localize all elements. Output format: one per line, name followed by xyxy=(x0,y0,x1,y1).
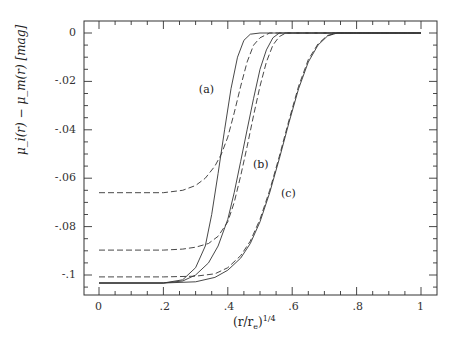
y-tick-label: 0 xyxy=(69,26,76,39)
y-tick-label: -.04 xyxy=(55,123,76,136)
x-axis-label-sup: 1/4 xyxy=(263,314,276,323)
y-tick-label: -.06 xyxy=(55,171,76,184)
y-axis-label: μ_i(r) − μ_m(r) [mag] xyxy=(14,25,28,155)
y-tick-label: -.08 xyxy=(55,220,76,233)
x-tick-label: .2 xyxy=(159,300,170,313)
y-tick-label: -.1 xyxy=(62,268,76,281)
x-tick-label: .6 xyxy=(288,300,299,313)
x-tick-label: 1 xyxy=(417,300,424,313)
x-tick-label: .4 xyxy=(224,300,235,313)
y-tick-label: -.02 xyxy=(55,74,76,87)
curve-label: (c) xyxy=(281,187,296,200)
x-tick-label: .8 xyxy=(353,300,364,313)
curve-label: (b) xyxy=(253,158,269,171)
x-tick-label: 0 xyxy=(95,300,102,313)
curve-label: (a) xyxy=(199,83,214,96)
x-axis-label: (r/re)1/4 xyxy=(233,314,276,331)
series-line xyxy=(99,33,421,250)
x-axis-label-sub: e xyxy=(253,322,258,331)
x-axis-label-text: (r/r xyxy=(233,315,253,329)
